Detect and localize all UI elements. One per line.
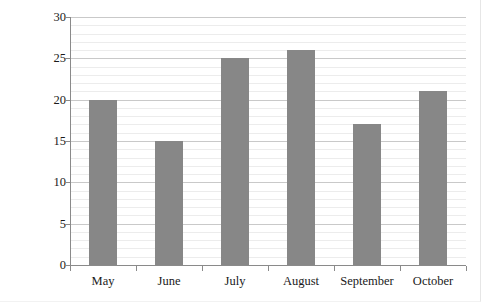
x-axis-tick-label: July	[225, 275, 246, 288]
gridline-major	[70, 100, 466, 101]
y-axis-tick-label: 30	[36, 11, 66, 24]
y-axis-tick-mark	[65, 141, 71, 142]
y-axis-tick-labels: 051015202530	[36, 17, 66, 265]
gridline-major	[70, 182, 466, 183]
gridline-minor	[70, 248, 466, 249]
gridline-minor	[70, 149, 466, 150]
gridline-minor	[70, 116, 466, 117]
bar	[287, 50, 315, 265]
gridline-major	[70, 17, 466, 18]
x-axis-tick-mark	[400, 266, 401, 271]
x-axis-tick-label: June	[158, 275, 181, 288]
y-axis-tick-label: 25	[36, 52, 66, 65]
gridline-minor	[70, 166, 466, 167]
y-axis-tick-mark	[65, 17, 71, 18]
gridline-minor	[70, 108, 466, 109]
plot-area	[70, 17, 466, 265]
bar-chart: Number of Sunny Days 051015202530 MayJun…	[0, 0, 481, 302]
gridline-minor	[70, 34, 466, 35]
gridline-minor	[70, 215, 466, 216]
x-axis-tick-mark	[268, 266, 269, 271]
gridline-minor	[70, 207, 466, 208]
gridline-minor	[70, 83, 466, 84]
x-axis-tick-mark	[70, 266, 71, 271]
bar	[89, 100, 117, 265]
gridline-minor	[70, 25, 466, 26]
y-axis-tick-label: 0	[36, 259, 66, 272]
gridline-minor	[70, 91, 466, 92]
y-axis-tick-label: 5	[36, 217, 66, 230]
gridline-minor	[70, 199, 466, 200]
x-axis-tick-label: September	[340, 275, 393, 288]
gridline-minor	[70, 124, 466, 125]
bar	[353, 124, 381, 265]
x-axis-tick-label: May	[92, 275, 115, 288]
gridline-minor	[70, 133, 466, 134]
gridline-minor	[70, 158, 466, 159]
gridline-minor	[70, 174, 466, 175]
x-axis-tick-label: August	[283, 275, 319, 288]
y-axis-tick-mark	[65, 58, 71, 59]
x-axis-tick-label: October	[413, 275, 453, 288]
x-axis-tick-mark	[466, 266, 467, 271]
bar	[221, 58, 249, 265]
bar	[419, 91, 447, 265]
gridline-major	[70, 224, 466, 225]
gridline-minor	[70, 50, 466, 51]
x-axis-tick-mark	[334, 266, 335, 271]
y-axis-tick-mark	[65, 182, 71, 183]
gridline-major	[70, 58, 466, 59]
bar	[155, 141, 183, 265]
y-axis-tick-label: 10	[36, 176, 66, 189]
gridline-minor	[70, 191, 466, 192]
y-axis-tick-label: 20	[36, 93, 66, 106]
gridline-minor	[70, 232, 466, 233]
x-axis-tick-mark	[136, 266, 137, 271]
gridline-minor	[70, 257, 466, 258]
y-axis-tick-mark	[65, 100, 71, 101]
gridline-minor	[70, 75, 466, 76]
gridline-minor	[70, 42, 466, 43]
gridline-minor	[70, 67, 466, 68]
y-axis-tick-label: 15	[36, 135, 66, 148]
gridline-minor	[70, 240, 466, 241]
gridline-major	[70, 141, 466, 142]
y-axis-tick-mark	[65, 224, 71, 225]
x-axis-tick-mark	[202, 266, 203, 271]
